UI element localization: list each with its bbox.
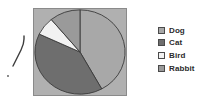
legend-label-cat: Cat	[169, 38, 182, 47]
legend-item-bird[interactable]: Bird	[158, 49, 210, 62]
legend-label-bird: Bird	[169, 51, 185, 60]
legend-swatch-cat	[158, 39, 165, 46]
pen-stroke-icon	[0, 0, 34, 102]
legend-label-rabbit: Rabbit	[169, 64, 195, 73]
chart-plot-area	[33, 8, 127, 96]
pie-slice-group	[35, 10, 125, 94]
chart-legend: Dog Cat Bird Rabbit	[158, 24, 210, 74]
legend-item-dog[interactable]: Dog	[158, 24, 210, 37]
legend-item-cat[interactable]: Cat	[158, 37, 210, 50]
legend-item-rabbit[interactable]: Rabbit	[158, 62, 210, 75]
legend-label-dog: Dog	[169, 26, 185, 35]
pie-chart	[34, 9, 126, 95]
legend-swatch-dog	[158, 27, 165, 34]
legend-swatch-bird	[158, 52, 165, 59]
legend-swatch-rabbit	[158, 65, 165, 72]
handwritten-annotation	[0, 0, 34, 102]
